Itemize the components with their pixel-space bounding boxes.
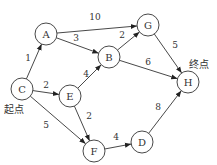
graph-canvas: 1103256245248 ABGHCEFD 起点终点 [0,0,217,165]
edge-D-H: 8 [149,91,182,134]
edge-E-B: 4 [78,65,101,88]
edge-arrow [57,26,137,33]
node-H: H [177,71,199,93]
edge-weight-label: 2 [119,30,125,40]
node-A: A [35,23,57,45]
edge-C-E: 2 [33,80,59,94]
edge-weight-label: 4 [113,132,119,142]
edge-E-F: 2 [74,106,91,141]
node-D: D [131,131,153,153]
node-G: G [137,14,159,36]
node-label: B [105,52,112,63]
edge-A-G: 10 [57,12,137,33]
edge-arrow [149,91,182,134]
edge-B-H: 6 [119,57,177,79]
node-E: E [59,85,81,107]
node-label: C [18,84,26,95]
edge-weight-label: 1 [25,53,31,63]
node-label: E [66,91,73,102]
edge-weight-label: 6 [145,57,151,67]
node-label: G [144,20,152,31]
edge-G-H: 5 [154,34,181,73]
node-label: H [184,77,193,88]
edge-C-A: 1 [25,44,41,79]
edge-arrow [105,144,131,149]
edge-weight-label: 8 [155,102,161,112]
node-label: F [91,146,98,157]
graph-diagram: 1103256245248 ABGHCEFD 起点终点 [0,0,217,165]
node-label: A [41,29,50,40]
edge-weight-label: 2 [43,80,49,90]
edge-weight-label: 2 [86,111,92,121]
edge-B-G: 2 [118,30,140,50]
edge-weight-label: 3 [73,33,79,43]
node-F: F [83,140,105,162]
edge-arrow [33,91,59,95]
edge-weight-label: 5 [43,120,49,130]
edge-weight-label: 5 [172,40,178,50]
node-B: B [98,46,120,68]
node-C: C [11,78,33,100]
node-label: D [138,137,146,148]
edge-weight-label: 4 [83,69,89,79]
edge-arrow [78,65,101,88]
edge-weight-label: 10 [89,12,101,22]
end-label: 终点 [189,58,209,70]
edge-A-B: 3 [56,33,98,53]
start-label: 起点 [4,104,24,115]
edge-F-D: 4 [105,132,131,149]
